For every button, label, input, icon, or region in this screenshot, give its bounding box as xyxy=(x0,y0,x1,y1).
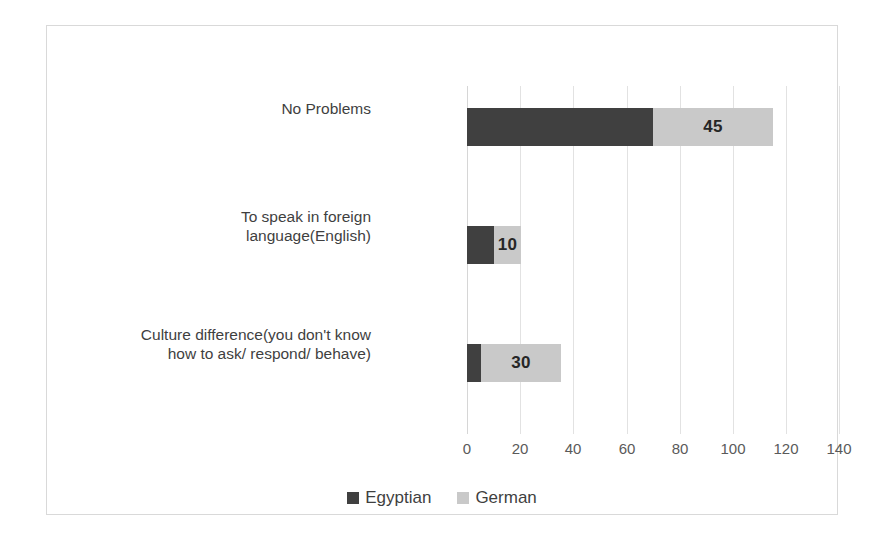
bar-segment-german[interactable]: 10 xyxy=(494,226,521,264)
legend-item-egyptian[interactable]: Egyptian xyxy=(347,488,431,508)
bar-segment-egyptian[interactable] xyxy=(467,344,481,382)
category-label-no-problems: No Problems xyxy=(281,99,371,118)
bar-value-label: 45 xyxy=(703,117,723,137)
chart-legend: Egyptian German xyxy=(47,488,837,508)
xtick-label-60: 60 xyxy=(619,440,636,457)
legend-swatch-icon xyxy=(347,492,359,504)
xtick-label-20: 20 xyxy=(512,440,529,457)
xtick-label-80: 80 xyxy=(672,440,689,457)
bar-segment-egyptian[interactable] xyxy=(467,226,494,264)
plot-area: 45 10 30 0 20 40 60 80 100 120 xyxy=(467,86,840,434)
legend-item-german[interactable]: German xyxy=(457,488,536,508)
gridline-120 xyxy=(786,86,787,434)
xtick-label-120: 120 xyxy=(773,440,798,457)
legend-label: German xyxy=(475,488,536,508)
xtick-label-140: 140 xyxy=(826,440,851,457)
category-label-culture-difference: Culture difference(you don't know how to… xyxy=(141,325,371,363)
bar-segment-german[interactable]: 30 xyxy=(481,344,561,382)
bar-segment-german[interactable]: 45 xyxy=(653,108,773,146)
xtick-label-40: 40 xyxy=(565,440,582,457)
gridline-140 xyxy=(839,86,840,434)
bar-segment-egyptian[interactable] xyxy=(467,108,653,146)
bar-value-label: 10 xyxy=(498,235,518,255)
category-label-foreign-language: To speak in foreign language(English) xyxy=(241,207,371,245)
xtick-label-0: 0 xyxy=(463,440,471,457)
xtick-label-100: 100 xyxy=(720,440,745,457)
chart-frame: 45 10 30 0 20 40 60 80 100 120 xyxy=(46,25,838,515)
legend-label: Egyptian xyxy=(365,488,431,508)
bar-value-label: 30 xyxy=(511,353,531,373)
legend-swatch-icon xyxy=(457,492,469,504)
